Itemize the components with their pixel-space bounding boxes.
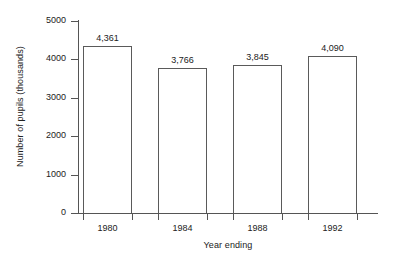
- bar-chart: Number of pupils (thousands) 01000200030…: [0, 0, 396, 266]
- y-axis-tick: [71, 175, 78, 176]
- bar: [158, 68, 207, 213]
- x-axis-tick: [83, 214, 84, 220]
- x-axis-tick-label: 1980: [78, 224, 138, 233]
- x-axis-line: [78, 213, 378, 214]
- y-axis-tick: [71, 21, 78, 22]
- x-axis-tick-label: 1988: [228, 224, 288, 233]
- bar: [83, 46, 132, 213]
- y-axis-line: [78, 20, 79, 214]
- y-axis-tick-label: 5000: [6, 16, 66, 25]
- bar: [233, 65, 282, 213]
- x-axis-tick: [158, 214, 159, 220]
- bar: [308, 56, 357, 213]
- x-axis-title: Year ending: [78, 240, 378, 250]
- y-axis-tick: [71, 98, 78, 99]
- y-axis-tick: [71, 136, 78, 137]
- x-axis-tick-label: 1984: [153, 224, 213, 233]
- x-axis-tick: [282, 214, 283, 220]
- bar-value-label: 3,845: [223, 53, 293, 62]
- bar-value-label: 4,090: [298, 44, 368, 53]
- y-axis-tick-label: 2000: [6, 131, 66, 140]
- y-axis-tick-label: 0: [6, 208, 66, 217]
- y-axis-tick-label: 4000: [6, 54, 66, 63]
- x-axis-tick: [132, 214, 133, 220]
- y-axis-tick: [71, 213, 78, 214]
- y-axis-tick: [71, 59, 78, 60]
- x-axis-tick: [357, 214, 358, 220]
- bar-value-label: 3,766: [148, 56, 218, 65]
- x-axis-tick: [233, 214, 234, 220]
- y-axis-tick-label: 3000: [6, 93, 66, 102]
- x-axis-tick-label: 1992: [303, 224, 363, 233]
- x-axis-tick: [308, 214, 309, 220]
- bar-value-label: 4,361: [73, 34, 143, 43]
- y-axis-title: Number of pupils (thousands): [10, 0, 30, 213]
- x-axis-tick: [207, 214, 208, 220]
- y-axis-tick-label: 1000: [6, 170, 66, 179]
